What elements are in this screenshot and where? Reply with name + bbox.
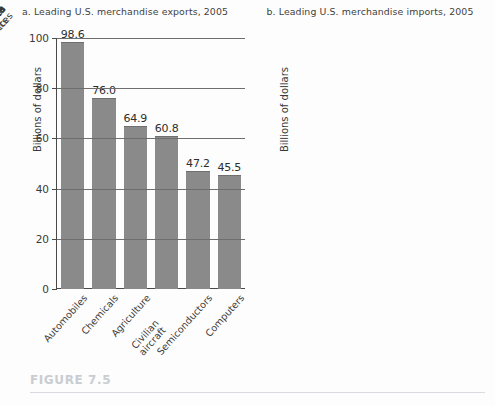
y-tick-label-exports-100: 100: [29, 32, 49, 44]
bar-slot: 64.9: [120, 38, 151, 289]
bar[interactable]: [61, 42, 84, 289]
bar-slot: 45.5: [214, 38, 245, 289]
y-tick-exports-80: [52, 88, 57, 89]
bar-value-label: 64.9: [123, 112, 147, 125]
gridline-exports-60: [57, 138, 245, 139]
figure-page: a. Leading U.S. merchandise exports, 200…: [0, 0, 495, 405]
bar-value-label: 45.5: [217, 161, 241, 174]
y-tick-label-exports-80: 80: [36, 82, 49, 94]
figure-caption: FIGURE 7.5: [30, 373, 111, 387]
bar-value-label: 76.0: [92, 84, 116, 97]
y-tick-exports-100: [52, 38, 57, 39]
y-tick-label-exports-0: 0: [42, 283, 49, 295]
bar-slot: 98.6: [57, 38, 88, 289]
y-tick-label-exports-60: 60: [36, 132, 49, 144]
chart-title-imports: b. Leading U.S. merchandise imports, 200…: [245, 6, 495, 17]
gridline-exports-20: [57, 239, 245, 240]
y-tick-exports-20: [52, 239, 57, 240]
bar-slot: 47.2: [182, 38, 213, 289]
gridline-exports-40: [57, 189, 245, 190]
category-label: Automobiles: [42, 293, 90, 344]
bar-slot: 76.0: [88, 38, 119, 289]
bar[interactable]: [124, 126, 147, 289]
bar-group-exports: 98.676.064.960.847.245.5: [57, 38, 245, 289]
bar-value-label: 47.2: [186, 157, 210, 170]
bar-value-label: 60.8: [155, 122, 179, 135]
chart-title-exports: a. Leading U.S. merchandise exports, 200…: [0, 6, 250, 17]
y-axis-title-imports: Billions of dollars: [279, 65, 290, 155]
y-tick-label-exports-20: 20: [36, 233, 49, 245]
y-tick-label-exports-40: 40: [36, 183, 49, 195]
bar[interactable]: [92, 98, 115, 289]
plot-area-exports: 98.676.064.960.847.245.5 AutomobilesChem…: [57, 38, 245, 289]
bar-slot: 60.8: [151, 38, 182, 289]
y-tick-exports-0: [52, 289, 57, 290]
category-labels-exports: AutomobilesChemicalsAgricultureCivilian …: [57, 289, 245, 369]
figure-divider: [30, 392, 485, 393]
bar[interactable]: [155, 136, 178, 289]
gridline-exports-80: [57, 88, 245, 89]
bar[interactable]: [218, 175, 241, 289]
y-tick-exports-60: [52, 138, 57, 139]
gridline-exports-100: [57, 38, 245, 39]
y-tick-exports-40: [52, 189, 57, 190]
